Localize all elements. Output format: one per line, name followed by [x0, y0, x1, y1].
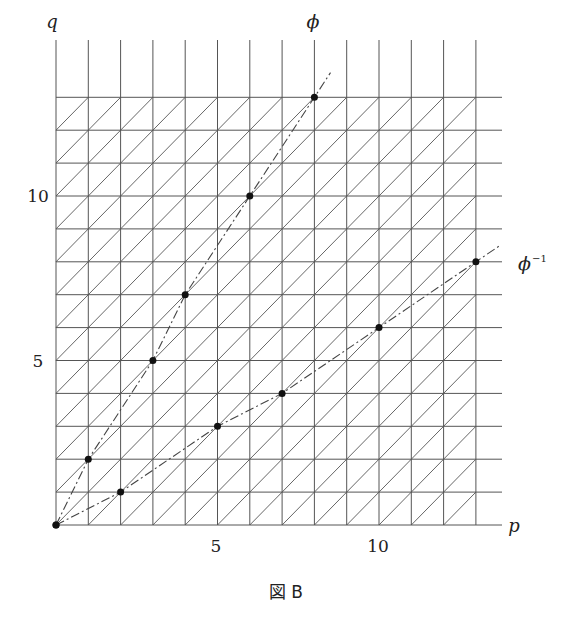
y-tick-10: 10 [27, 186, 49, 206]
grid-diagonal [185, 492, 217, 525]
grid-diagonal [153, 295, 185, 328]
grid-diagonal [282, 361, 314, 394]
x-tick-10: 10 [367, 536, 389, 556]
data-point [149, 357, 156, 364]
grid-diagonal [88, 130, 120, 163]
grid-diagonal [314, 393, 346, 426]
grid-diagonal [153, 426, 185, 459]
grid-diagonal [185, 295, 217, 328]
grid-diagonal [88, 196, 120, 229]
grid-diagonal [444, 492, 476, 525]
grid-diagonal [250, 196, 282, 229]
grid-diagonal [56, 393, 88, 426]
grid-lines [56, 40, 502, 525]
grid-diagonal [444, 426, 476, 459]
grid-diagonal [88, 492, 120, 525]
grid-diagonal [185, 130, 217, 163]
grid-diagonal [121, 130, 153, 163]
grid-diagonal [444, 229, 476, 262]
grid-diagonal [314, 492, 346, 525]
grid-diagonal [411, 97, 443, 130]
grid-diagonal [282, 459, 314, 492]
grid-diagonal [153, 459, 185, 492]
grid-diagonal [218, 262, 250, 295]
grid-diagonal [153, 196, 185, 229]
grid-diagonal [444, 459, 476, 492]
grid-diagonal [250, 361, 282, 394]
grid-diagonal [121, 328, 153, 361]
grid-diagonal [121, 262, 153, 295]
grid-diagonal [347, 492, 379, 525]
grid-diagonal [88, 229, 120, 262]
data-point [472, 258, 479, 265]
grid-diagonal [121, 97, 153, 130]
grid-diagonal [314, 229, 346, 262]
grid-diagonal [56, 426, 88, 459]
grid-diagonal [411, 492, 443, 525]
curve-phi-inverse [56, 245, 500, 525]
axis-label-p: p [508, 515, 520, 536]
grid-diagonal [56, 492, 88, 525]
grid-diagonal [314, 262, 346, 295]
grid-diagonal [379, 426, 411, 459]
grid-diagonal [185, 163, 217, 196]
grid-diagonal [121, 459, 153, 492]
grid-diagonal [347, 229, 379, 262]
grid-diagonal [88, 262, 120, 295]
grid-diagonal [218, 97, 250, 130]
grid-diagonal [379, 459, 411, 492]
data-point [311, 94, 318, 101]
grid-diagonal [444, 130, 476, 163]
grid-diagonal [314, 163, 346, 196]
grid-diagonal [411, 328, 443, 361]
grid-diagonal [411, 426, 443, 459]
grid-diagonal [218, 459, 250, 492]
grid-diagonal [379, 492, 411, 525]
grid-diagonal [56, 97, 88, 130]
grid-diagonal [218, 361, 250, 394]
grid-diagonal [56, 262, 88, 295]
grid-diagonal [282, 393, 314, 426]
grid-diagonal [411, 262, 443, 295]
data-point [182, 291, 189, 298]
grid-diagonal [121, 361, 153, 394]
grid-diagonal [56, 459, 88, 492]
grid-diagonal [379, 196, 411, 229]
grid-diagonal [56, 361, 88, 394]
grid-diagonal [314, 328, 346, 361]
grid-diagonal [347, 426, 379, 459]
grid-diagonal [153, 328, 185, 361]
grid-diagonal [56, 295, 88, 328]
data-point [53, 522, 60, 529]
grid-diagonal [121, 393, 153, 426]
grid-diagonal [218, 295, 250, 328]
grid-diagonal [153, 262, 185, 295]
grid-diagonal [250, 97, 282, 130]
grid-diagonal [218, 229, 250, 262]
grid-diagonal [379, 229, 411, 262]
grid-diagonal [444, 196, 476, 229]
grid-diagonal [185, 426, 217, 459]
grid-diagonal [88, 459, 120, 492]
grid-diagonal [379, 328, 411, 361]
grid-diagonal [153, 163, 185, 196]
grid-diagonal [185, 459, 217, 492]
grid-diagonal [153, 492, 185, 525]
grid-diagonal [379, 262, 411, 295]
curve-label-phi-inv: ϕ [518, 252, 531, 274]
grid-diagonal [282, 426, 314, 459]
grid-diagonal [250, 492, 282, 525]
grid-diagonal [88, 295, 120, 328]
grid-diagonal [411, 361, 443, 394]
grid-diagonal [282, 229, 314, 262]
grid-diagonal [56, 163, 88, 196]
grid-diagonal [185, 196, 217, 229]
curve-label-phi-inv-exponent: −1 [532, 253, 547, 264]
figure-caption: 図 B [269, 582, 303, 602]
grid-diagonal [282, 163, 314, 196]
grid-diagonal [250, 393, 282, 426]
grid-diagonal [444, 97, 476, 130]
y-tick-5: 5 [33, 351, 44, 371]
grid-diagonal [444, 393, 476, 426]
grid-diagonal [282, 492, 314, 525]
